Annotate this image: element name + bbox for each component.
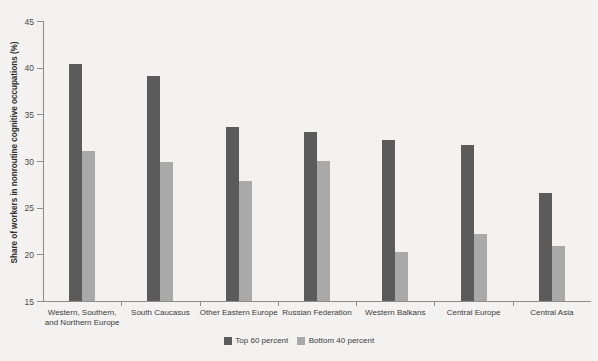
plot-area: 15202530354045: [43, 21, 591, 301]
y-axis-tick-label: 45: [25, 17, 34, 27]
y-axis-line: [43, 21, 44, 301]
bar-top60: [226, 127, 239, 301]
y-axis-tick-label: 30: [25, 157, 34, 167]
x-axis-category-label: Other Eastern Europe: [200, 308, 278, 318]
legend-swatch-icon: [224, 337, 232, 345]
y-axis-title-text: Share of workers in nonroutine cognitive…: [11, 42, 20, 264]
y-axis-tick: 15: [37, 301, 43, 302]
y-axis-tick: 20: [37, 254, 43, 255]
y-axis-tick: 30: [37, 161, 43, 162]
legend-item[interactable]: Bottom 40 percent: [297, 336, 374, 345]
legend-label: Bottom 40 percent: [309, 336, 374, 345]
legend-item[interactable]: Top 60 percent: [224, 336, 288, 345]
x-axis-tick: [356, 301, 357, 306]
x-axis-category-label: South Caucasus: [121, 308, 199, 318]
bar-bottom40: [317, 161, 330, 301]
bar-bottom40: [239, 181, 252, 301]
bar-bottom40: [395, 252, 408, 301]
legend-label: Top 60 percent: [235, 336, 288, 345]
x-axis-line: [43, 301, 591, 302]
y-axis-tick: 45: [37, 21, 43, 22]
x-axis-tick: [121, 301, 122, 306]
bar-top60: [382, 140, 395, 301]
x-axis-category-label: Central Europe: [434, 308, 512, 318]
x-axis-category-label: Central Asia: [513, 308, 591, 318]
bar-top60: [461, 145, 474, 301]
chart-figure: Share of workers in nonroutine cognitive…: [0, 0, 598, 361]
x-axis-tick: [200, 301, 201, 306]
x-axis-tick: [278, 301, 279, 306]
x-axis-category-label: Western, Southern, and Northern Europe: [43, 308, 121, 328]
bar-bottom40: [474, 234, 487, 301]
bar-top60: [539, 193, 552, 301]
y-axis-title: Share of workers in nonroutine cognitive…: [6, 0, 24, 305]
x-axis-tick: [434, 301, 435, 306]
x-axis-category-label: Russian Federation: [278, 308, 356, 318]
y-axis-tick-label: 25: [25, 203, 34, 213]
bar-bottom40: [160, 162, 173, 301]
y-axis-tick: 35: [37, 114, 43, 115]
y-axis-tick: 40: [37, 68, 43, 69]
bar-top60: [304, 132, 317, 301]
bar-bottom40: [552, 246, 565, 301]
bar-bottom40: [82, 151, 95, 301]
y-axis-tick-label: 35: [25, 110, 34, 120]
y-axis-tick-label: 40: [25, 63, 34, 73]
x-axis-category-label: Western Balkans: [356, 308, 434, 318]
y-axis-tick-label: 20: [25, 250, 34, 260]
bar-top60: [147, 76, 160, 301]
bar-top60: [69, 64, 82, 301]
legend-swatch-icon: [297, 337, 305, 345]
y-axis-tick-label: 15: [25, 297, 34, 307]
chart-legend: Top 60 percentBottom 40 percent: [0, 336, 598, 345]
y-axis-tick: 25: [37, 208, 43, 209]
x-axis-tick: [513, 301, 514, 306]
